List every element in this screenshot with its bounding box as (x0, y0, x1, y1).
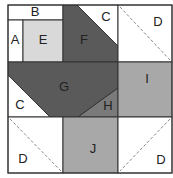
label-i: I (145, 71, 149, 86)
label-c-left: C (15, 97, 24, 112)
label-d-top-right: D (153, 14, 162, 29)
label-d-bottom-left: D (18, 151, 27, 166)
label-c-top: C (101, 9, 110, 24)
label-e: E (39, 32, 48, 47)
label-j: J (90, 141, 97, 156)
label-a: A (11, 32, 20, 47)
label-f: F (80, 32, 88, 47)
piece-i (118, 62, 172, 117)
label-h: H (103, 98, 112, 113)
quilt-diagram: B A E F C D G C H I D J D (0, 0, 173, 178)
label-g: G (59, 79, 69, 94)
label-b: B (31, 4, 40, 19)
label-d-bottom-right: D (156, 152, 165, 167)
